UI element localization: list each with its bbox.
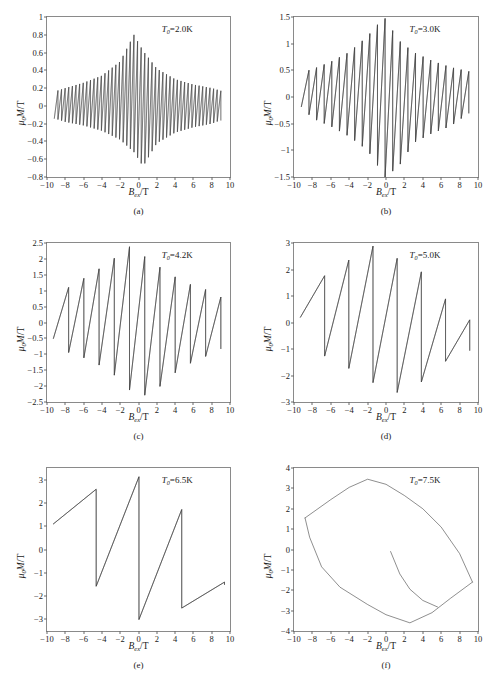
panel-e-xtick-mark xyxy=(230,631,231,634)
panel-a-xtick-mark xyxy=(175,177,176,180)
panel-f-ytick-mark xyxy=(291,529,294,530)
panel-b-ytick-mark xyxy=(291,150,294,151)
panel-b-plot-area: 1.510.50−0.5−1−1.5−10−8−6−4−20246810 xyxy=(293,16,479,178)
panel-c-ytick-label: 2.5 xyxy=(32,239,43,248)
panel-c-ylabel: μ0M/T xyxy=(17,326,27,350)
panel-c-ytick-mark xyxy=(44,258,47,259)
panel-a-temperature-annotation: T0=2.0K xyxy=(162,25,193,35)
panel-e-ytick-label: 0 xyxy=(39,545,43,554)
panel-e-ytick-label: 1 xyxy=(39,522,43,531)
figure-panel-grid: μ0M/T 10.80.60.40.20−0.2−0.4−0.6−0.8−10−… xyxy=(0,0,495,680)
panel-e-ytick-mark xyxy=(44,596,47,597)
panel-c-xtick-mark xyxy=(138,402,139,405)
panel-c-ytick-mark xyxy=(44,274,47,275)
panel-a-xtick-mark xyxy=(47,177,48,180)
panel-c-ytick-label: 0.5 xyxy=(32,302,43,311)
panel-b-ytick-label: 0.5 xyxy=(279,66,290,75)
panel-a-xtick-mark xyxy=(230,177,231,180)
panel-f-xtick-mark xyxy=(478,631,479,634)
panel-b-ytick-label: −1 xyxy=(281,146,290,155)
panel-c-xtick-mark xyxy=(193,402,194,405)
panel-d-ytick-label: 1 xyxy=(286,292,290,301)
panel-f-ytick-mark xyxy=(291,468,294,469)
panel-a-ytick-mark xyxy=(44,159,47,160)
panel-f-ytick-mark xyxy=(291,610,294,611)
panel-c-ytick-mark xyxy=(44,354,47,355)
panel-a-ylabel: μ0M/T xyxy=(17,101,27,125)
panel-a-ytick-mark xyxy=(44,52,47,53)
panel-d: μ0M/T 3210−1−2−3−10−8−6−4−20246810 Bex/T… xyxy=(247,226,495,451)
panel-f-ytick-label: 1 xyxy=(286,525,290,534)
panel-c-ytick-mark xyxy=(44,306,47,307)
panel-c-plot-area: 2.521.510.50−0.5−1−1.5−2−2.5−10−8−6−4−20… xyxy=(46,242,231,403)
panel-f-xtick-mark xyxy=(294,631,295,634)
panel-a-xtick-mark xyxy=(65,177,66,180)
panel-f-ytick-label: −2 xyxy=(281,586,290,595)
panel-d-ytick-label: 3 xyxy=(286,239,290,248)
panel-d-temperature-annotation: T0=5.0K xyxy=(410,251,441,261)
panel-c-ytick-label: −2 xyxy=(34,382,43,391)
panel-c-ytick-label: 1.5 xyxy=(32,271,43,280)
panel-e-xlabel: Bex/T xyxy=(46,642,231,652)
panel-a-ytick-label: −0.2 xyxy=(28,119,43,128)
panel-f-trace-2 xyxy=(391,552,438,607)
panel-c-trace-1 xyxy=(53,247,220,395)
panel-a: μ0M/T 10.80.60.40.20−0.2−0.4−0.6−0.8−10−… xyxy=(0,0,247,226)
panel-f-plot-area: 43210−1−2−3−4−10−8−6−4−20246810 xyxy=(293,467,479,632)
panel-d-temp-value: 5.0 xyxy=(423,250,434,260)
panel-d-curve xyxy=(294,243,478,402)
panel-b-xtick-mark xyxy=(441,177,442,180)
panel-a-xtick-mark xyxy=(193,177,194,180)
panel-f-xtick-mark xyxy=(386,631,387,634)
panel-b-xtick-mark xyxy=(478,177,479,180)
panel-c-ytick-mark xyxy=(44,322,47,323)
panel-b-xtick-mark xyxy=(349,177,350,180)
panel-d-ytick-label: 0 xyxy=(286,318,290,327)
panel-e-xtick-mark xyxy=(138,631,139,634)
panel-e-temp-value: 6.5 xyxy=(175,475,186,485)
panel-c-temp-value: 4.2 xyxy=(175,250,186,260)
panel-f-ytick-mark xyxy=(291,508,294,509)
panel-d-ytick-label: −1 xyxy=(281,345,290,354)
panel-f-trace-1 xyxy=(305,518,472,623)
panel-a-xtick-mark xyxy=(156,177,157,180)
panel-c-ytick-mark xyxy=(44,386,47,387)
panel-e-ytick-mark xyxy=(44,619,47,620)
panel-f-ytick-mark xyxy=(291,549,294,550)
panel-e-xtick-mark xyxy=(83,631,84,634)
panel-c-ytick-label: −1.5 xyxy=(28,366,43,375)
panel-c-ytick-label: 0 xyxy=(39,318,43,327)
panel-d-caption: (d) xyxy=(293,432,479,441)
panel-e: μ0M/T 3210−1−2−3−10−8−6−4−20246810 Bex/T… xyxy=(0,451,247,680)
panel-c-temperature-annotation: T0=4.2K xyxy=(162,251,193,261)
panel-b-ytick-mark xyxy=(291,97,294,98)
panel-c-xtick-mark xyxy=(120,402,121,405)
panel-f-ytick-label: −3 xyxy=(281,606,290,615)
panel-b-curve xyxy=(294,17,478,177)
panel-d-xtick-mark xyxy=(312,402,313,405)
panel-f-ylabel: μ0M/T xyxy=(264,553,274,577)
panel-c-xtick-mark xyxy=(83,402,84,405)
panel-e-xtick-mark xyxy=(156,631,157,634)
panel-d-ytick-mark xyxy=(291,296,294,297)
panel-e-ytick-label: −1 xyxy=(34,569,43,578)
panel-a-xtick-mark xyxy=(138,177,139,180)
panel-e-ytick-label: 3 xyxy=(39,475,43,484)
panel-f-xtick-mark xyxy=(367,631,368,634)
panel-a-ytick-mark xyxy=(44,105,47,106)
panel-a-ytick-mark xyxy=(44,141,47,142)
panel-a-ytick-label: 0.8 xyxy=(32,31,43,40)
panel-f-curve xyxy=(294,468,478,631)
panel-d-xtick-mark xyxy=(330,402,331,405)
panel-f-ytick-label: 4 xyxy=(286,464,290,473)
panel-e-plot-area: 3210−1−2−3−10−8−6−4−20246810 xyxy=(46,467,231,632)
panel-e-ytick-mark xyxy=(44,502,47,503)
panel-f-ytick-label: −1 xyxy=(281,566,290,575)
panel-e-ytick-mark xyxy=(44,479,47,480)
panel-d-xtick-mark xyxy=(422,402,423,405)
panel-c-xtick-mark xyxy=(211,402,212,405)
panel-c-xtick-mark xyxy=(65,402,66,405)
panel-e-trace-1 xyxy=(53,477,224,620)
panel-b-trace-1 xyxy=(301,18,468,177)
panel-b-xtick-mark xyxy=(294,177,295,180)
